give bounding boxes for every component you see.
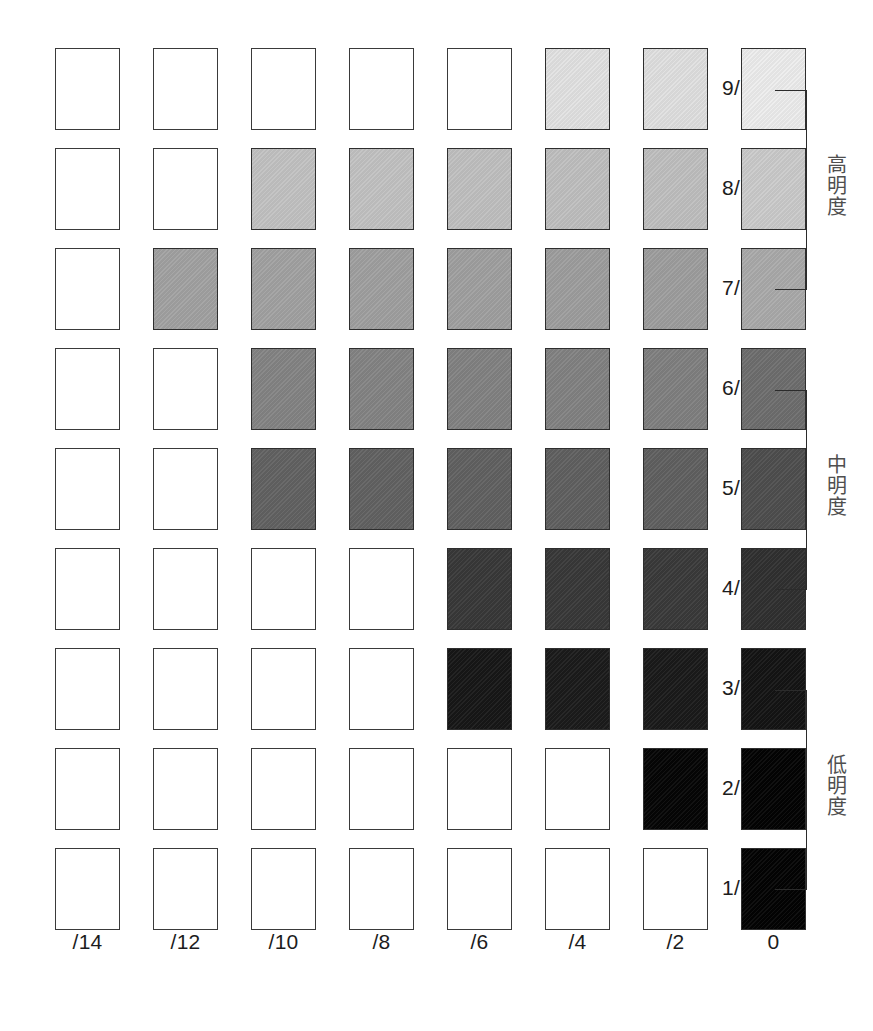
- swatch-8-c6: [447, 148, 512, 230]
- col-label-c14: /14: [55, 930, 120, 954]
- swatch-1-c2: [643, 848, 708, 930]
- swatch-9-c10: [251, 48, 316, 130]
- swatch-1-c14: [55, 848, 120, 930]
- row-label-2: 2/: [722, 776, 766, 800]
- swatch-7-c14: [55, 248, 120, 330]
- swatch-4-c6: [447, 548, 512, 630]
- swatch-row: [55, 248, 707, 348]
- swatch-4-c14: [55, 548, 120, 630]
- swatch-8-c10: [251, 148, 316, 230]
- swatch-5-c8: [349, 448, 414, 530]
- swatch-1-c6: [447, 848, 512, 930]
- swatch-3-c8: [349, 648, 414, 730]
- swatch-9-c6: [447, 48, 512, 130]
- swatch-row: [55, 448, 707, 548]
- row-label-9: 9/: [722, 76, 766, 100]
- column-label-group: /14/12/10/8/6/4/20: [55, 930, 707, 964]
- col-label-0: 0: [741, 930, 806, 954]
- swatch-9-c8: [349, 48, 414, 130]
- bracket-2: [775, 690, 807, 890]
- swatch-5-c2: [643, 448, 708, 530]
- swatch-row: [55, 548, 707, 648]
- row-label-1: 1/: [722, 876, 766, 900]
- swatch-1-c8: [349, 848, 414, 930]
- group-label-1: 中明度: [812, 454, 846, 517]
- row-label-4: 4/: [722, 576, 766, 600]
- swatch-row: [55, 148, 707, 248]
- bracket-1: [775, 390, 807, 590]
- swatch-row: [55, 48, 707, 148]
- swatch-row: [55, 648, 707, 748]
- swatch-6-c8: [349, 348, 414, 430]
- col-label-c10: /10: [251, 930, 316, 954]
- swatch-4-c10: [251, 548, 316, 630]
- swatch-2-c14: [55, 748, 120, 830]
- swatch-9-c12: [153, 48, 218, 130]
- swatch-5-c6: [447, 448, 512, 530]
- swatch-6-c12: [153, 348, 218, 430]
- munsell-value-chroma-chart: 9/8/7/6/5/4/3/2/1/ 高明度中明度低明度 /14/12/10/8…: [0, 0, 873, 1031]
- swatch-3-c6: [447, 648, 512, 730]
- swatch-3-c14: [55, 648, 120, 730]
- swatch-5-c12: [153, 448, 218, 530]
- swatch-5-c14: [55, 448, 120, 530]
- swatch-6-c14: [55, 348, 120, 430]
- row-label-3: 3/: [722, 676, 766, 700]
- swatch-7-c10: [251, 248, 316, 330]
- swatch-4-c8: [349, 548, 414, 630]
- swatch-2-c12: [153, 748, 218, 830]
- swatch-7-c4: [545, 248, 610, 330]
- swatch-8-c8: [349, 148, 414, 230]
- swatch-8-c4: [545, 148, 610, 230]
- swatch-row: [55, 348, 707, 448]
- swatch-2-c10: [251, 748, 316, 830]
- swatch-8-c12: [153, 148, 218, 230]
- swatch-7-c6: [447, 248, 512, 330]
- col-label-c6: /6: [447, 930, 512, 954]
- swatch-7-c12: [153, 248, 218, 330]
- swatch-6-c6: [447, 348, 512, 430]
- swatch-6-c2: [643, 348, 708, 430]
- swatch-2-c2: [643, 748, 708, 830]
- swatch-6-c10: [251, 348, 316, 430]
- swatch-3-c2: [643, 648, 708, 730]
- swatch-2-c4: [545, 748, 610, 830]
- swatch-5-c4: [545, 448, 610, 530]
- swatch-4-c2: [643, 548, 708, 630]
- swatch-1-c12: [153, 848, 218, 930]
- bracket-0: [775, 90, 807, 290]
- col-label-c2: /2: [643, 930, 708, 954]
- swatch-6-c4: [545, 348, 610, 430]
- swatch-7-c8: [349, 248, 414, 330]
- swatch-9-c14: [55, 48, 120, 130]
- row-label-6: 6/: [722, 376, 766, 400]
- swatch-9-c2: [643, 48, 708, 130]
- group-label-0: 高明度: [812, 154, 846, 217]
- swatch-3-c4: [545, 648, 610, 730]
- group-label-2: 低明度: [812, 754, 846, 817]
- swatch-7-c2: [643, 248, 708, 330]
- swatch-1-c4: [545, 848, 610, 930]
- swatch-8-c2: [643, 148, 708, 230]
- swatch-9-c4: [545, 48, 610, 130]
- row-label-8: 8/: [722, 176, 766, 200]
- swatch-3-c10: [251, 648, 316, 730]
- swatch-4-c4: [545, 548, 610, 630]
- col-label-c12: /12: [153, 930, 218, 954]
- col-label-c8: /8: [349, 930, 414, 954]
- swatch-3-c12: [153, 648, 218, 730]
- swatch-2-c6: [447, 748, 512, 830]
- swatch-2-c8: [349, 748, 414, 830]
- swatch-4-c12: [153, 548, 218, 630]
- swatch-grid: [55, 48, 707, 914]
- row-label-5: 5/: [722, 476, 766, 500]
- swatch-8-c14: [55, 148, 120, 230]
- swatch-5-c10: [251, 448, 316, 530]
- swatch-1-c10: [251, 848, 316, 930]
- col-label-c4: /4: [545, 930, 610, 954]
- row-label-7: 7/: [722, 276, 766, 300]
- swatch-row: [55, 748, 707, 848]
